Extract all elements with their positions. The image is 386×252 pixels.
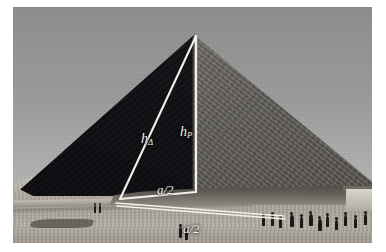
geometry-overlay: [13, 7, 372, 243]
label-slant-height: hΔ: [141, 132, 153, 147]
pyramid-geometry-figure: hΔ hP a/2 a/2: [0, 0, 386, 252]
label-pyramid-height: hP: [180, 125, 192, 140]
label-half-base-upper: a/2: [157, 183, 174, 196]
label-half-base-lower: a/2: [183, 222, 200, 235]
ground-base-line: [116, 203, 284, 216]
label-pyramid-height-symbol: h: [180, 124, 187, 139]
label-slant-height-symbol: h: [141, 131, 148, 146]
label-pyramid-height-subscript: P: [187, 130, 192, 140]
slant-height-line: [120, 36, 196, 199]
photograph-plate: hΔ hP a/2 a/2: [13, 7, 372, 243]
ground-base-line-lower: [117, 206, 285, 219]
label-slant-height-subscript: Δ: [148, 137, 153, 147]
